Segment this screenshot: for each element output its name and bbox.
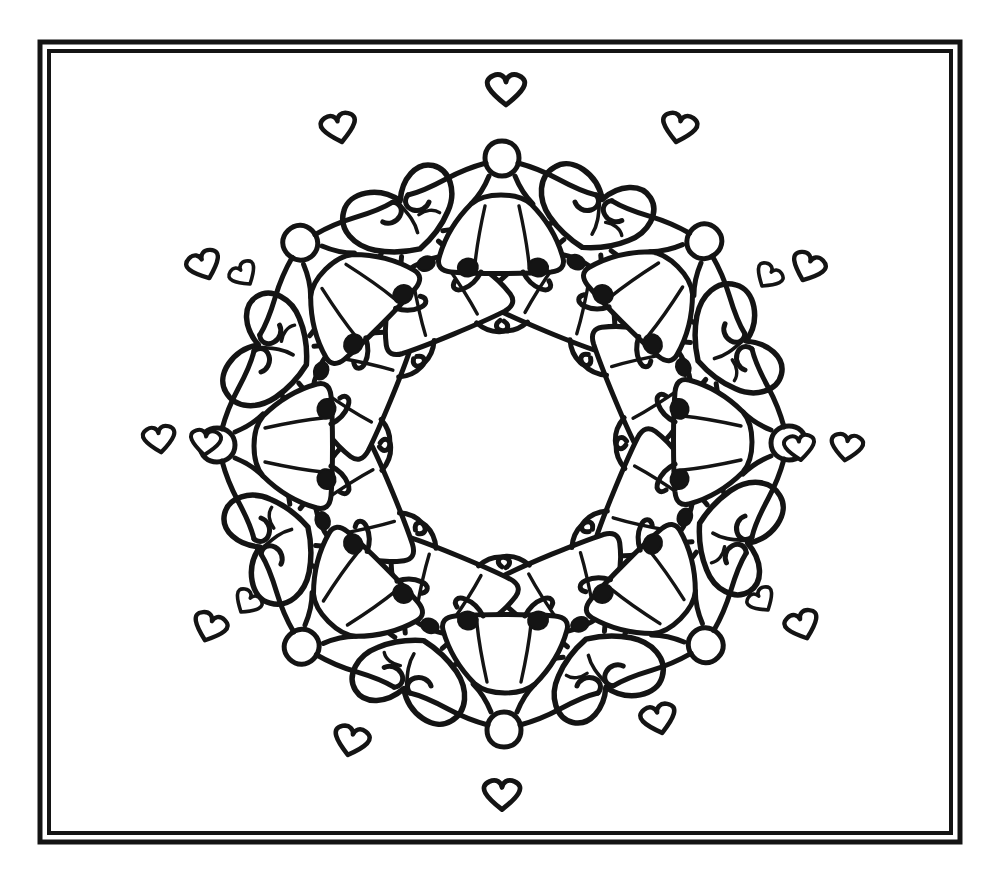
heart-top-left-icon: [319, 111, 359, 146]
heart-bottom-center-icon: [484, 780, 520, 809]
heart-inner-top-right-icon: [751, 260, 786, 294]
heart-inner-top-left-icon: [226, 258, 261, 292]
dancer-wreath: [198, 139, 808, 749]
round-head-dancers: [200, 141, 806, 747]
heart-top-center-icon: [487, 75, 525, 105]
illustration-canvas: Ring of Dancing Heart Figures Hand-drawn…: [0, 0, 1001, 891]
heart-right-outer-icon: [829, 433, 864, 463]
heart-lower-right-icon: [782, 607, 822, 644]
heart-lower-left-icon: [189, 609, 229, 646]
heart-upper-left-icon: [184, 247, 225, 284]
heart-bottom-right-icon: [639, 702, 679, 738]
heart-top-right-icon: [659, 111, 699, 146]
heart-upper-right-icon: [787, 249, 828, 286]
heart-left-outer-icon: [142, 425, 177, 455]
heart-bottom-left-icon: [331, 724, 371, 760]
scattered-hearts-layer: [142, 75, 864, 810]
wreath-illustration: [0, 0, 1001, 891]
